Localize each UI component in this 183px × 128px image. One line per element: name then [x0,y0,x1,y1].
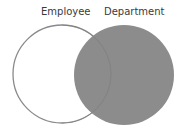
department-circle [74,25,174,125]
venn-diagram [0,0,183,128]
